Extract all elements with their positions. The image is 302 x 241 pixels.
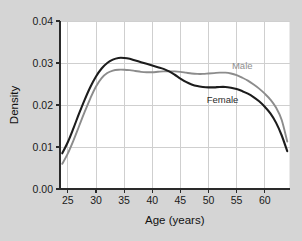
- x-tick-label: 40: [146, 194, 158, 206]
- x-tick-label: 60: [259, 194, 271, 206]
- x-axis-title: Age (years): [145, 214, 205, 226]
- x-tick-label: 25: [62, 194, 74, 206]
- series-label-female: Female: [207, 94, 239, 105]
- y-axis-title: Density: [8, 86, 20, 125]
- series-label-male: Male: [232, 60, 253, 71]
- density-chart-figure: 0.000.010.020.030.04 2530354045505560 Fe…: [0, 0, 302, 241]
- y-tick-label: 0.04: [33, 15, 54, 27]
- x-tick-label: 35: [118, 194, 130, 206]
- y-tick-label: 0.03: [33, 57, 54, 69]
- x-tick-label: 50: [203, 194, 215, 206]
- chart-canvas: 0.000.010.020.030.04 2530354045505560 Fe…: [0, 0, 302, 241]
- x-tick-label: 45: [175, 194, 187, 206]
- y-tick-label: 0.01: [33, 141, 54, 153]
- x-tick-label: 55: [231, 194, 243, 206]
- y-tick-label: 0.00: [33, 183, 54, 195]
- y-tick-label: 0.02: [33, 99, 54, 111]
- x-tick-label: 30: [90, 194, 102, 206]
